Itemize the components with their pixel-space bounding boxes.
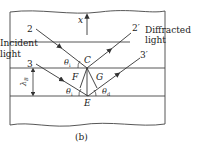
diffracted-light-label-2: light (145, 35, 166, 45)
point-G-label: G (96, 72, 103, 82)
diffracted-ray-2: 2′ (87, 23, 140, 68)
diffraction-diagram: x 2 3 2′ 3′ Incident light Diffracted l (0, 0, 197, 148)
point-C-label: C (84, 55, 91, 65)
diffracted-light-label-1: Diffracted (145, 25, 191, 35)
x-axis-arrow: x (78, 15, 87, 35)
figure-caption: (b) (75, 132, 88, 142)
x-axis-label: x (78, 15, 83, 25)
incident-light-label-1: Incident (0, 38, 38, 48)
point-E-label: E (83, 98, 91, 108)
ray-3-label: 3 (27, 59, 33, 69)
ray-3prime-label: 3′ (140, 50, 148, 60)
theta-d: θ d (102, 87, 111, 97)
ray-2prime-label: 2′ (132, 23, 140, 33)
layer-spacing: λ B (19, 70, 33, 94)
theta-i-bottom: θ i (66, 87, 73, 97)
svg-text:B: B (23, 77, 29, 82)
incident-light-label-2: light (0, 49, 21, 59)
incident-ray-3: 3 (27, 59, 88, 96)
point-F-label: F (71, 72, 79, 82)
theta-i-top: θ i (64, 58, 71, 68)
ray-2-label: 2 (27, 24, 33, 34)
svg-text:i: i (69, 62, 71, 68)
